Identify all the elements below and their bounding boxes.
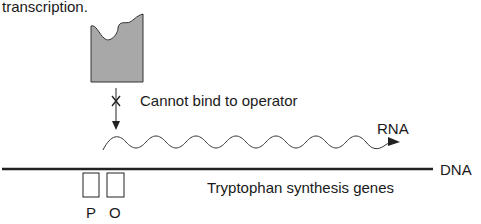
binding-arrow-head bbox=[112, 121, 120, 130]
trp-operon-diagram: transcription. Cannot bind to operator R… bbox=[0, 0, 481, 224]
genes-label: Tryptophan synthesis genes bbox=[207, 179, 394, 196]
promoter-label: P bbox=[86, 204, 96, 221]
caption-fragment: transcription. bbox=[2, 0, 88, 15]
repressor-protein bbox=[91, 14, 143, 82]
cannot-bind-annotation: Cannot bind to operator bbox=[140, 92, 298, 109]
rna-transcript bbox=[103, 136, 395, 150]
rna-arrow-head bbox=[388, 137, 400, 146]
promoter-box bbox=[83, 173, 99, 197]
rna-label: RNA bbox=[377, 120, 409, 137]
dna-label: DNA bbox=[440, 161, 472, 178]
operator-box bbox=[107, 173, 124, 197]
operator-label: O bbox=[109, 204, 121, 221]
